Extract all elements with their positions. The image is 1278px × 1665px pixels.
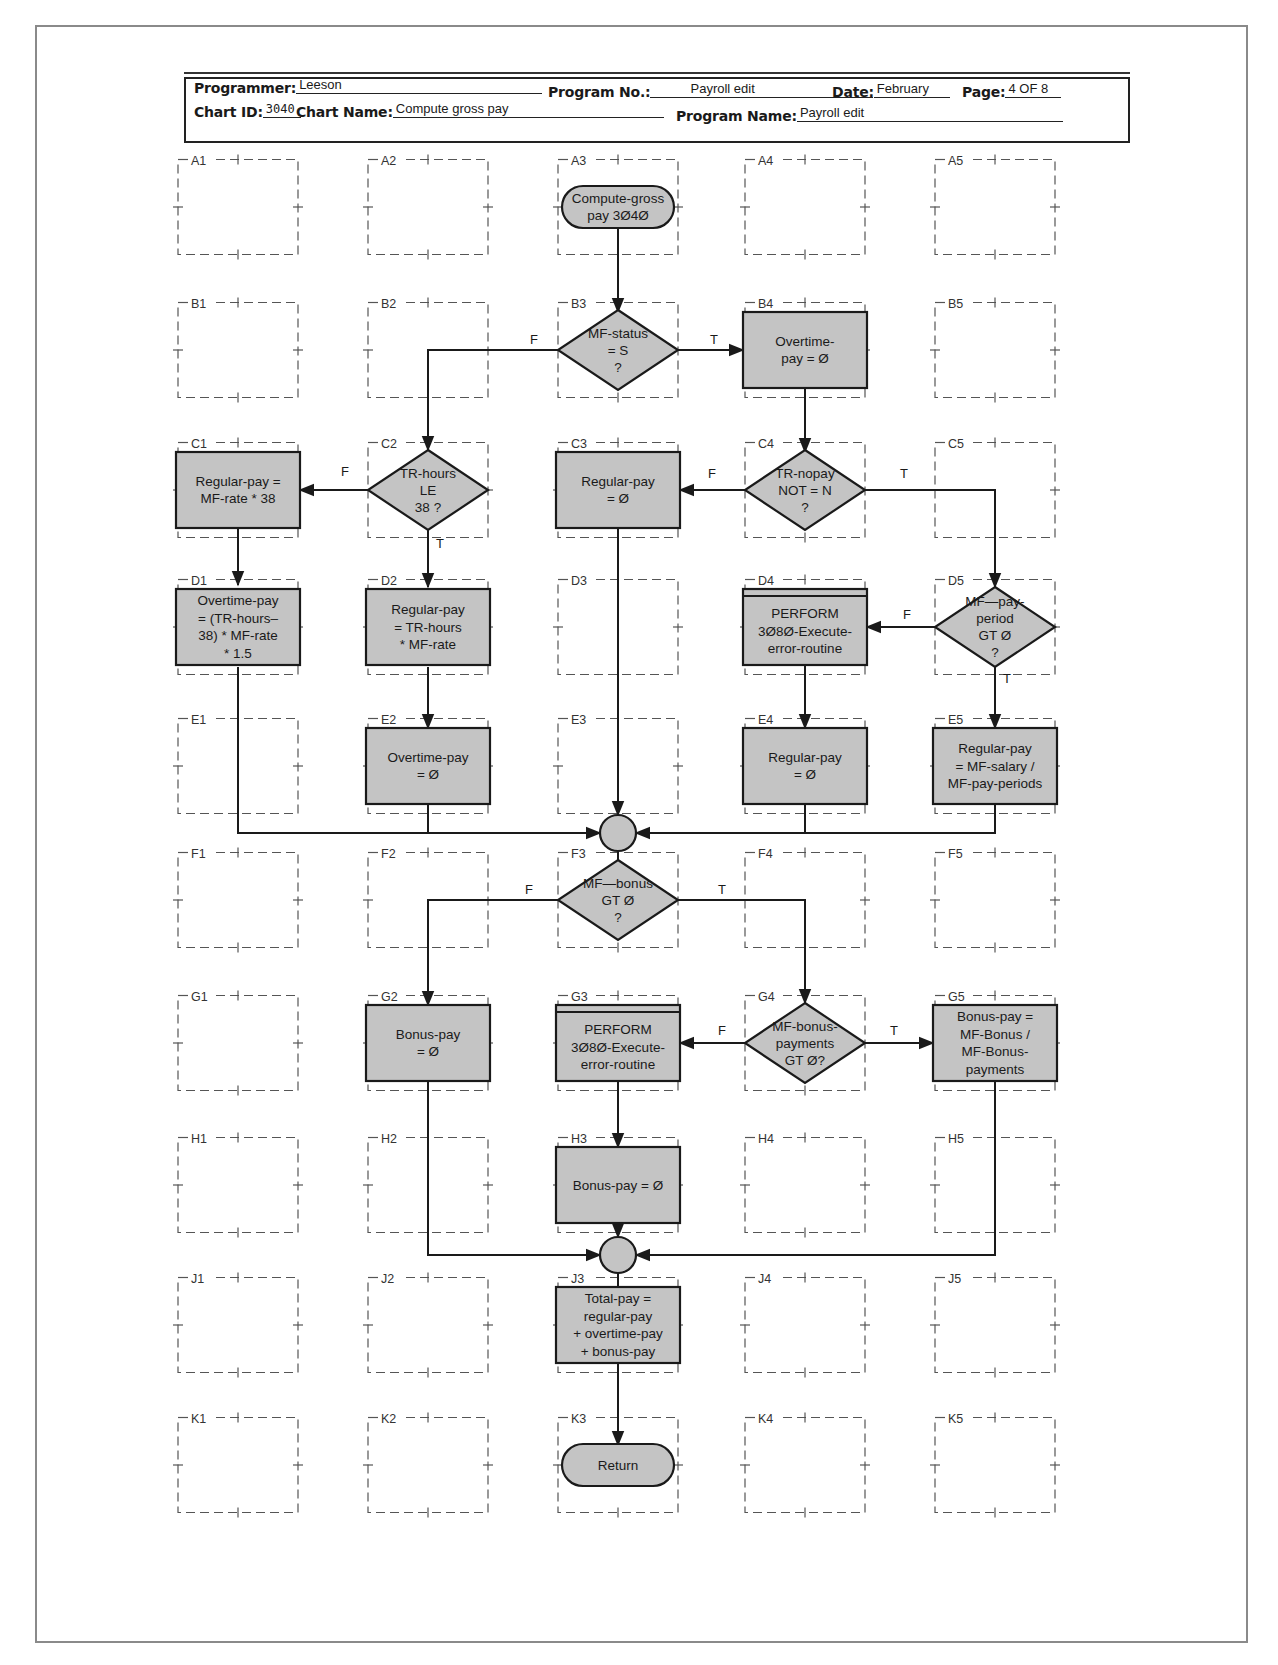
symbol-text-line: NOT = N [778,483,831,498]
grid-cell-label: A3 [571,154,586,168]
grid-cell-label: G1 [191,990,208,1004]
grid-cell-label: A1 [191,154,206,168]
grid-cell-a2: A2 [363,154,493,260]
symbol-text-line: * 1.5 [224,646,252,661]
symbol-e5-process: Regular-pay= MF-salary /MF-pay-periods [933,728,1057,804]
grid-cell-label: J4 [758,1272,771,1286]
grid-cell-label: H5 [948,1132,964,1146]
symbol-g2-process: Bonus-pay= Ø [366,1005,490,1081]
symbol-text-line: MF-bonus- [772,1019,837,1034]
symbol-e4-process: Regular-pay= Ø [743,728,867,804]
grid-cell-k5: K5 [930,1412,1060,1518]
grid-cell-label: C2 [381,437,397,451]
grid-cell-k2: K2 [363,1412,493,1518]
symbol-text-line: Overtime- [775,334,834,349]
symbol-text-line: 38) * MF-rate [198,628,278,643]
symbol-text-line: PERFORM [584,1022,652,1037]
symbol-text-line: PERFORM [771,606,839,621]
grid-cell-label: C3 [571,437,587,451]
grid-cell-label: C1 [191,437,207,451]
grid-cell-label: B3 [571,297,586,311]
symbol-text-line: + overtime-pay [573,1326,663,1341]
symbol-text-line: Regular-pay = [195,474,280,489]
symbol-text-line: MF-Bonus / [960,1027,1030,1042]
grid-cell-label: E4 [758,713,773,727]
grid-cell-label: E1 [191,713,206,727]
grid-cell-label: F3 [571,847,586,861]
symbol-text-line: MF—bonus [583,876,653,891]
symbol-c3-process: Regular-pay= Ø [556,452,680,528]
symbol-text-line: Return [598,1458,639,1473]
symbol-text-line: Regular-pay [391,602,465,617]
symbol-text-line: MF—pay- [965,594,1024,609]
grid-cell-label: G4 [758,990,775,1004]
symbol-text-line: = Ø [417,1044,440,1059]
grid-cell-label: D2 [381,574,397,588]
symbol-b3-decision: MF-status= S? [558,310,678,390]
grid-cell-label: G5 [948,990,965,1004]
grid-cell-label: F2 [381,847,396,861]
edge-label-g4-false: F [718,1023,726,1038]
symbol-text-line: MF-rate * 38 [200,491,275,506]
grid-cell-label: C5 [948,437,964,451]
grid-cell-label: G2 [381,990,398,1004]
grid-cell-label: J1 [191,1272,204,1286]
symbol-text-line: pay = Ø [781,351,829,366]
symbol-text-line: TR-hours [400,466,457,481]
symbol-text-line: Regular-pay [581,474,655,489]
symbol-text-line: Regular-pay [768,750,842,765]
symbol-text-line: = TR-hours [394,620,462,635]
symbol-text-line: = (TR-hours– [198,611,278,626]
symbol-g3-predefined: PERFORM3Ø8Ø-Execute-error-routine [556,1005,680,1081]
symbol-text-line: MF-status [588,326,648,341]
symbol-text-line: Regular-pay [958,741,1032,756]
grid-cell-j2: J2 [363,1272,493,1378]
grid-cell-k1: K1 [173,1412,303,1518]
symbol-text-line: Bonus-pay = [957,1009,1033,1024]
symbol-text-line: 3Ø8Ø-Execute- [571,1040,665,1055]
symbol-c4-decision: TR-nopayNOT = N? [745,450,865,530]
grid-cell-label: B4 [758,297,773,311]
grid-cell-a4: A4 [740,154,870,260]
symbol-text-line: = Ø [607,491,630,506]
symbol-text-line: Overtime-pay [197,593,278,608]
edge-label-d5-true: T [1003,671,1011,686]
edge-label-b3-true: T [710,332,718,347]
grid-cell-label: B2 [381,297,396,311]
grid-cell-a1: A1 [173,154,303,260]
grid-cell-label: B1 [191,297,206,311]
symbol-text-line: regular-pay [584,1309,653,1324]
edge-label-f3-false: F [525,882,533,897]
grid-cell-label: D3 [571,574,587,588]
grid-cell-label: D5 [948,574,964,588]
grid-cell-label: K3 [571,1412,586,1426]
symbol-text-line: TR-nopay [775,466,835,481]
symbol-text-line: payments [966,1062,1025,1077]
flowchart: A1A2A3A4A5B1B2B3B4B5C1C2C3C4C5D1D2D3D4D5… [0,0,1278,1665]
symbol-d1-process: Overtime-pay= (TR-hours–38) * MF-rate* 1… [176,589,300,665]
symbol-text-line: MF-Bonus- [962,1044,1029,1059]
grid-cell-label: K5 [948,1412,963,1426]
edge-label-f3-true: T [718,882,726,897]
grid-cell-f5: F5 [930,847,1060,953]
symbol-text-line: ? [801,500,809,515]
edge-label-b3-false: F [530,332,538,347]
symbol-text-line: = S [608,343,629,358]
symbol-d5-decision: MF—pay-periodGT Ø? [935,587,1055,667]
grid-cell-label: J2 [381,1272,394,1286]
symbol-h3-process: Bonus-pay = Ø [556,1147,680,1223]
symbol-b4-process: Overtime-pay = Ø [743,312,867,388]
grid-cell-label: A2 [381,154,396,168]
symbol-text-line: Compute-gross [572,191,665,206]
symbol-text-line: Bonus-pay [396,1027,461,1042]
grid-cell-h4: H4 [740,1132,870,1238]
flow-symbols: Compute-grosspay 3Ø4ØMF-status= S?Overti… [176,186,1057,1486]
symbol-text-line: = Ø [417,767,440,782]
edge-label-c2-false: F [341,464,349,479]
symbol-text-line: error-routine [768,641,842,656]
symbol-d2-process: Regular-pay= TR-hours* MF-rate [366,589,490,665]
grid-cell-j1: J1 [173,1272,303,1378]
grid-cell-label: K4 [758,1412,773,1426]
grid-cell-label: D4 [758,574,774,588]
symbol-text-line: Bonus-pay = Ø [573,1178,664,1193]
